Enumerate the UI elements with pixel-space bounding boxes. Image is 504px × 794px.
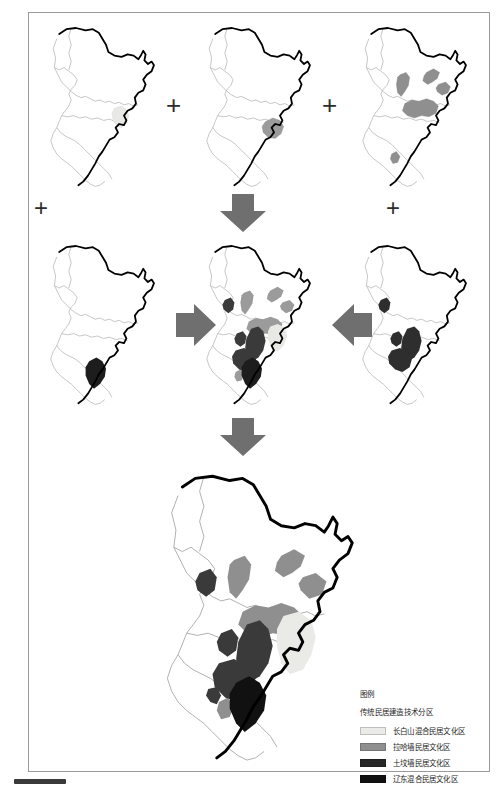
region-group-scattered	[390, 69, 450, 164]
plus-sign-r2c1: +	[34, 196, 48, 220]
legend-item: 辽东混合民居文化区	[360, 773, 486, 784]
legend-swatch-liaodong	[360, 775, 386, 783]
legend-item: 拉哈墙民居文化区	[360, 741, 486, 752]
bottom-rule-mark	[14, 779, 66, 784]
legend-item: 长白山混合民居文化区	[360, 725, 486, 736]
arrow-down-glyph-2	[220, 418, 266, 456]
legend-label-earth: 土坟墙民居文化区	[393, 757, 451, 768]
legend-title: 图例	[360, 688, 486, 699]
overlay-liaodong-black	[242, 358, 262, 389]
panel-scattered-gray-layer	[352, 20, 472, 192]
arrow-down-bottom	[218, 418, 268, 458]
legend-subtitle: 传统民居建造技术分区	[360, 706, 486, 717]
panel-liaodong-mixed-layer	[40, 238, 160, 410]
panel-combined-overlay-map	[196, 238, 316, 410]
panel-laha-wall-layer	[196, 20, 316, 192]
legend-swatch-changbai	[360, 727, 386, 735]
legend-label-liaodong: 辽东混合民居文化区	[393, 773, 458, 784]
panel-changbai-mixed-layer	[40, 20, 160, 192]
panel-earth-wall-layer	[352, 238, 472, 410]
plus-sign-r1c1: +	[166, 92, 181, 118]
arrow-down-glyph	[220, 194, 266, 232]
panel-final-synthesis-map	[148, 462, 363, 770]
final-region-liaodong-mixed	[230, 676, 267, 732]
legend-label-laha: 拉哈墙民居文化区	[393, 741, 451, 752]
legend-swatch-laha	[360, 743, 386, 751]
arrow-down-top	[218, 194, 268, 234]
legend-label-changbai: 长白山混合民居文化区	[393, 725, 465, 736]
region-group-earth-wall	[378, 298, 421, 372]
legend-swatch-earth	[360, 759, 386, 767]
plus-sign-r2c3: +	[386, 196, 400, 220]
legend: 图例 传统民居建造技术分区 长白山混合民居文化区 拉哈墙民居文化区 土坟墙民居文…	[360, 688, 486, 789]
region-liaodong-mixed	[86, 358, 106, 389]
legend-item: 土坟墙民居文化区	[360, 757, 486, 768]
plus-sign-r1c2: +	[322, 92, 337, 118]
